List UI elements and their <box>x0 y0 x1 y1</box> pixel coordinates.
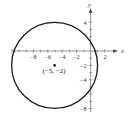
y-tick-label: −4 <box>80 77 86 83</box>
coordinate-plot: −8 −6 −4 −2 2 x 4 −2 −4 −8 y <box>0 0 129 119</box>
y-tick-label: −8 <box>80 106 86 112</box>
y-axis: 4 −2 −4 −8 y <box>80 1 92 112</box>
x-tick-label: −2 <box>73 54 79 60</box>
x-axis: −8 −6 −4 −2 2 x <box>12 47 124 60</box>
x-tick-label: 2 <box>104 54 107 60</box>
x-axis-arrow-icon <box>113 49 118 53</box>
x-tick-label: −8 <box>30 54 36 60</box>
x-axis-label: x <box>120 47 124 54</box>
y-tick-label: −2 <box>80 63 86 69</box>
x-tick-label: −4 <box>59 54 65 60</box>
y-axis-arrow-icon <box>89 8 93 13</box>
y-tick-label: 4 <box>84 20 87 26</box>
center-point-label: (−5, −2) <box>42 67 66 75</box>
x-tick-label: −6 <box>45 54 51 60</box>
y-axis-label: y <box>87 1 91 8</box>
